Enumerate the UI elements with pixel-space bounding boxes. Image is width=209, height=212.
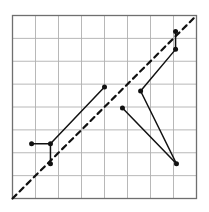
marker-vertex-top-low (173, 47, 178, 52)
marker-vertex-left-outer (29, 141, 34, 146)
marker-vertex-upper-mid (102, 85, 107, 90)
marker-vertex-bottom-right (174, 161, 179, 166)
data-point-markers (29, 29, 179, 166)
figure-canvas (0, 0, 209, 212)
marker-vertex-inner-mid (120, 105, 125, 110)
marker-vertex-left-bottom (48, 161, 53, 166)
series-path-inner-to-bottom-right (122, 108, 176, 164)
plot-area (0, 0, 209, 212)
series-path-lower-left (32, 144, 51, 164)
marker-vertex-junction (138, 88, 143, 93)
marker-vertex-top-high (173, 29, 178, 34)
marker-vertex-left-inner (48, 141, 53, 146)
